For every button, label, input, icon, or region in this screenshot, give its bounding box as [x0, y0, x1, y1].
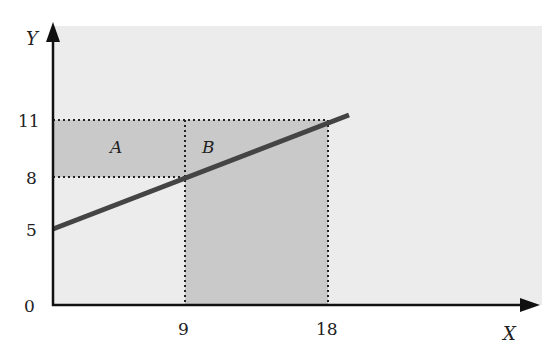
- y-tick-0: 0: [24, 296, 35, 316]
- chart-canvas: Y X 11 8 5 0 9 18 A B: [0, 0, 555, 352]
- x-tick-18: 18: [316, 319, 338, 339]
- x-axis-label: X: [501, 323, 517, 344]
- y-axis-label: Y: [26, 28, 40, 49]
- region-b-label: B: [201, 137, 215, 157]
- y-tick-5: 5: [26, 220, 37, 240]
- y-tick-11: 11: [18, 111, 40, 131]
- y-tick-8: 8: [26, 168, 37, 188]
- x-tick-9: 9: [178, 319, 189, 339]
- region-a-label: A: [108, 137, 122, 157]
